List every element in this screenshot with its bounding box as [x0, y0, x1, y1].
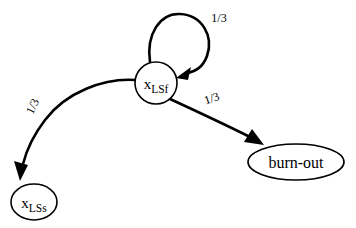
node-burn-out-label: burn-out: [268, 154, 324, 171]
edge-lsf-to-burnout: 1/3: [170, 89, 264, 145]
lsf-to-lss-path: [23, 80, 135, 164]
node-x-lss[interactable]: xLSs: [11, 184, 57, 220]
node-burn-out[interactable]: burn-out: [248, 144, 344, 180]
self-loop-label: 1/3: [211, 11, 226, 25]
node-x-lsf-subscript: LSf: [151, 83, 168, 95]
lsf-to-lss-label: 1/3: [23, 96, 42, 116]
self-loop-arrowhead: [176, 67, 191, 80]
lsf-to-burnout-label: 1/3: [202, 89, 221, 107]
state-transition-diagram: 1/3 1/3 1/3 xLSf xLSs: [0, 0, 356, 228]
edge-lsf-to-lss: 1/3: [14, 80, 135, 181]
node-x-lsf[interactable]: xLSf: [135, 62, 177, 104]
diagram-canvas: 1/3 1/3 1/3 xLSf xLSs: [0, 0, 356, 228]
lsf-to-lss-arrowhead: [14, 161, 28, 181]
lsf-to-burnout-arrowhead: [244, 129, 264, 145]
node-x-lss-subscript: LSs: [29, 202, 47, 214]
